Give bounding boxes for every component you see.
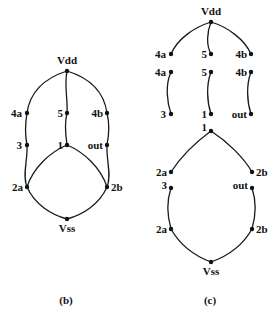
label-4a: 4a [11,107,23,119]
label-out-lower: out [233,179,249,191]
caption-b: (b) [59,294,73,307]
edge-1-2a [171,131,211,172]
node-2b-lower [250,227,254,231]
label-4b: 4b [91,107,103,119]
label-vss: Vss [59,222,76,234]
edge-4a-3 [167,72,171,114]
edge-2b-vss [211,229,252,262]
label-vss: Vss [203,265,220,277]
label-3-mid: 3 [161,108,167,120]
label-5-mid: 5 [202,66,208,78]
node-vdd [65,69,69,73]
edge-3-2a [168,188,171,229]
edge-out-2b [252,188,255,229]
edge-1-2b [211,131,252,172]
node-4a-mid [169,70,173,74]
node-2b-upper [250,170,254,174]
figure-b: Vdd 4a 5 4b 3 1 out 2a 2b Vss (b) [11,54,123,307]
node-4a [25,111,29,115]
label-1-oval: 1 [202,121,208,133]
label-1-mid: 1 [202,108,208,120]
node-1 [65,143,69,147]
edge-out-2b [107,145,109,187]
label-3: 3 [17,139,23,151]
node-1-mid [209,112,213,116]
label-vdd: Vdd [57,54,77,66]
node-5-mid [209,70,213,74]
label-4b-top: 4b [235,48,247,60]
node-3-mid [169,112,173,116]
node-4a-top [169,52,173,56]
edge-1-2b [67,145,107,187]
edge-5-1 [208,72,211,114]
label-2b-lower: 2b [256,223,268,235]
node-5-top [209,52,213,56]
node-4b [105,111,109,115]
label-2a-lower: 2a [156,223,168,235]
node-out-lower [250,186,254,190]
graph-diagram: Vdd 4a 5 4b 3 1 out 2a 2b Vss (b) [0,0,278,314]
caption-c: (c) [204,294,217,307]
edge-2a-vss [27,187,67,219]
node-1-oval [209,129,213,133]
label-2a-upper: 2a [156,166,168,178]
edge-3-2a [25,145,27,187]
node-4b-mid [249,70,253,74]
node-5 [65,111,69,115]
node-vdd [209,20,213,24]
label-2a: 2a [12,181,24,193]
label-3-lower: 3 [162,179,168,191]
node-out-mid [249,112,253,116]
node-2a-lower [169,227,173,231]
edge-vdd-5 [66,71,67,113]
label-out-mid: out [232,108,248,120]
node-4b-top [249,52,253,56]
node-2b [105,185,109,189]
label-vdd: Vdd [201,5,221,17]
figure-c: Vdd 4a 5 4b 4a 5 4b 3 1 out 1 2a 2b 3 ou… [155,5,268,307]
label-1: 1 [58,139,64,151]
node-out [105,143,109,147]
node-3 [25,143,29,147]
edge-vdd-5 [208,22,211,54]
node-2a [25,185,29,189]
label-4a-mid: 4a [155,66,167,78]
edge-5-1 [65,113,67,145]
edge-1-2a [27,145,67,187]
edge-4b-out [107,113,109,145]
label-5-top: 5 [202,48,208,60]
node-2a-upper [169,170,173,174]
label-4b-mid: 4b [235,66,247,78]
label-4a-top: 4a [155,48,167,60]
label-2b-upper: 2b [256,166,268,178]
label-2b: 2b [111,181,123,193]
edge-2b-vss [67,187,107,219]
node-3-lower [169,186,173,190]
label-5: 5 [58,107,64,119]
node-vss [209,260,213,264]
edge-4a-3 [26,113,28,145]
edge-2a-vss [171,229,211,262]
label-out: out [88,139,104,151]
node-vss [65,217,69,221]
edge-4b-out [248,72,251,114]
